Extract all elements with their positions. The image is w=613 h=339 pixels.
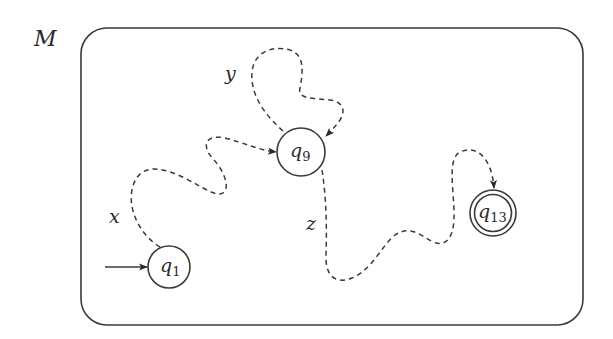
automaton-diagram: M x y z q1 q9 q13 [0, 0, 613, 339]
path-label-y: y [224, 62, 236, 84]
state-q1: q1 [148, 246, 190, 288]
state-q13: q13 [470, 190, 516, 236]
path-y [252, 48, 343, 136]
state-q9: q9 [277, 128, 325, 176]
path-z [322, 150, 494, 280]
path-label-z: z [305, 212, 317, 234]
machine-label: M [33, 26, 57, 51]
path-label-x: x [109, 205, 120, 227]
path-x [131, 137, 276, 247]
